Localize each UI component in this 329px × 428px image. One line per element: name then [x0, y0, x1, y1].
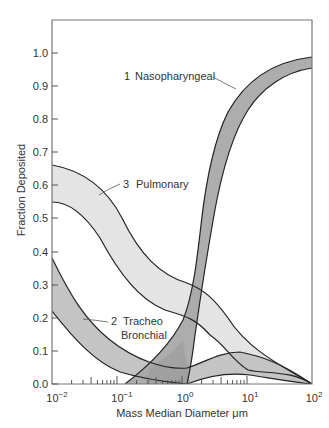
pul-number: 3: [123, 178, 129, 190]
y-axis: [52, 53, 58, 384]
y-tick-9: 0.9: [33, 80, 48, 92]
y-tick-0: 0.0: [33, 378, 48, 390]
x-tick-4: 102: [306, 390, 323, 404]
y-tick-2: 0.2: [33, 312, 48, 324]
x-tick-0: 10−2: [46, 390, 68, 404]
np-label: Nasopharyngeal: [135, 70, 215, 82]
y-tick-10: 1.0: [33, 47, 48, 59]
pul-leader-line: [99, 184, 120, 195]
y-tick-8: 0.8: [33, 113, 48, 125]
x-tick-1: 10−1: [111, 390, 133, 404]
x-tick-labels: 10−2 10−1 100 101 102: [46, 390, 323, 404]
y-tick-7: 0.7: [33, 146, 48, 158]
annotation-pulmonary: 3 Pulmonary: [99, 178, 189, 195]
x-tick-3: 101: [242, 390, 259, 404]
tb-label-line1: Tracheo: [123, 315, 163, 327]
y-tick-1: 0.1: [33, 345, 48, 357]
x-tick-2: 100: [177, 390, 194, 404]
tb-label-line2: Bronchial: [121, 329, 167, 341]
np-number: 1: [124, 70, 130, 82]
pul-label: Pulmonary: [136, 178, 189, 190]
deposition-chart: 0.0 0.1 0.2 0.3 0.4 0.5 0.6 0.7 0.8 0.9 …: [0, 0, 329, 428]
y-tick-6: 0.6: [33, 179, 48, 191]
y-tick-5: 0.5: [33, 212, 48, 224]
y-tick-labels: 0.0 0.1 0.2 0.3 0.4 0.5 0.6 0.7 0.8 0.9 …: [33, 47, 48, 390]
np-leader-line: [213, 77, 236, 89]
y-axis-title: Fraction Deposited: [15, 144, 27, 236]
y-tick-3: 0.3: [33, 279, 48, 291]
x-axis-title: Mass Median Diameter μm: [116, 407, 248, 419]
tb-number: 2: [111, 315, 117, 327]
plot-area: [52, 57, 312, 384]
annotation-nasopharyngeal: 1 Nasopharyngeal: [124, 70, 236, 89]
y-tick-4: 0.4: [33, 246, 48, 258]
